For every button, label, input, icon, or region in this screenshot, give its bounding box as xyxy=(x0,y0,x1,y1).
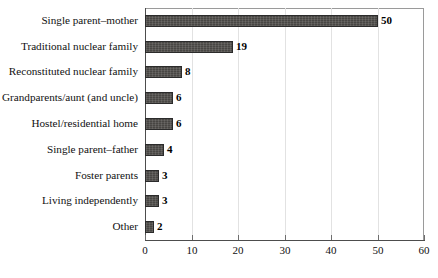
category-label: Living independently xyxy=(0,194,138,207)
bar-chart: 0102030405060 Single parent–mother50Trad… xyxy=(0,0,438,278)
bar xyxy=(145,144,164,156)
x-tick-mark-20 xyxy=(238,235,239,240)
x-tick-label-0: 0 xyxy=(125,244,165,257)
category-label: Other xyxy=(0,220,138,233)
gridline-30 xyxy=(285,8,286,240)
category-label: Single parent–father xyxy=(0,143,138,156)
x-tick-label-60: 60 xyxy=(404,244,438,257)
bar xyxy=(145,170,159,182)
bar-value-label: 50 xyxy=(381,14,392,27)
x-tick-mark-30 xyxy=(285,235,286,240)
bar xyxy=(145,221,154,233)
x-tick-mark-0 xyxy=(145,235,146,240)
x-tick-label-50: 50 xyxy=(358,244,398,257)
category-label: Hostel/residential home xyxy=(0,117,138,130)
x-axis-line xyxy=(145,240,425,241)
x-tick-mark-10 xyxy=(192,235,193,240)
x-tick-mark-40 xyxy=(331,235,332,240)
bar-value-label: 2 xyxy=(157,220,163,233)
x-tick-mark-60 xyxy=(424,235,425,240)
bar xyxy=(145,66,182,78)
x-tick-label-10: 10 xyxy=(172,244,212,257)
bar-value-label: 8 xyxy=(185,65,191,78)
category-label: Grandparents/aunt (and uncle) xyxy=(0,91,138,104)
category-label: Traditional nuclear family xyxy=(0,40,138,53)
category-label: Single parent–mother xyxy=(0,14,138,27)
category-label: Foster parents xyxy=(0,169,138,182)
category-label: Reconstituted nuclear family xyxy=(0,65,138,78)
x-tick-label-30: 30 xyxy=(265,244,305,257)
bar-value-label: 19 xyxy=(236,40,247,53)
x-tick-label-40: 40 xyxy=(311,244,351,257)
bar-value-label: 3 xyxy=(162,169,168,182)
bar-value-label: 4 xyxy=(167,143,173,156)
bar xyxy=(145,92,173,104)
bar-value-label: 6 xyxy=(176,91,182,104)
bar-value-label: 3 xyxy=(162,194,168,207)
bar xyxy=(145,41,233,53)
bar xyxy=(145,195,159,207)
x-tick-mark-50 xyxy=(378,235,379,240)
bar xyxy=(145,118,173,130)
bar-value-label: 6 xyxy=(176,117,182,130)
x-tick-label-20: 20 xyxy=(218,244,258,257)
gridline-40 xyxy=(331,8,332,240)
gridline-50 xyxy=(378,8,379,240)
bar xyxy=(145,15,378,27)
